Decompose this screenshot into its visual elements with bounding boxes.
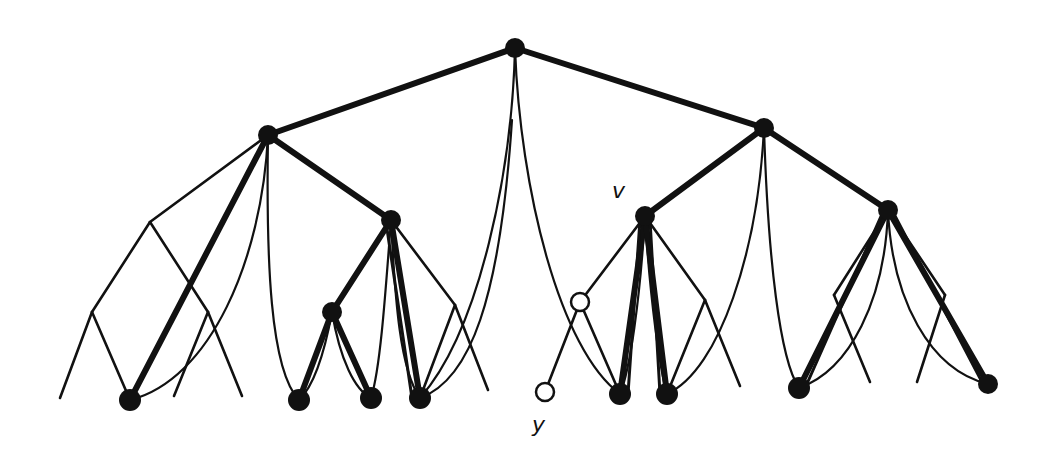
tree-diagram: v y — [0, 0, 1054, 458]
parallel-edges — [386, 214, 982, 398]
node-leaf8 — [978, 374, 998, 394]
curve-L-leaf2 — [268, 135, 299, 400]
edge-LRL-leaf3 — [332, 312, 371, 398]
thick-edges — [130, 48, 988, 400]
edge-R-v — [645, 128, 764, 216]
node-leaf2 — [288, 389, 310, 411]
node-hollow-1 — [571, 293, 589, 311]
edge-L-LR — [268, 135, 391, 220]
curve-R-leaf7 — [764, 128, 799, 388]
label-v: v — [612, 178, 626, 203]
edge-LRL-leaf2 — [299, 312, 332, 400]
curved-edges — [130, 48, 988, 400]
edge-root-L — [268, 48, 515, 135]
node-RR — [878, 200, 898, 220]
curve-leaf4-up — [420, 120, 512, 398]
node-root — [505, 38, 525, 58]
edge-LR-LRL — [332, 220, 391, 312]
diagram-canvas: v y — [0, 0, 1054, 458]
node-leaf3 — [360, 387, 382, 409]
edge-root-R — [515, 48, 764, 128]
curve-R-leaf6 — [667, 128, 764, 394]
node-leaf4 — [409, 387, 431, 409]
edge-R-RR — [764, 128, 888, 210]
curve-root-leaf5 — [515, 48, 620, 394]
node-leaf5 — [609, 383, 631, 405]
node-L — [258, 125, 278, 145]
node-LRL — [322, 302, 342, 322]
node-y — [536, 383, 554, 401]
node-leaf6 — [656, 383, 678, 405]
edge-LR-leaf4 — [391, 220, 420, 398]
node-v — [635, 206, 655, 226]
label-y: y — [531, 412, 546, 437]
node-LR — [381, 210, 401, 230]
node-leaf1 — [119, 389, 141, 411]
node-R — [754, 118, 774, 138]
node-leaf7 — [788, 377, 810, 399]
edge-L-leaf1 — [130, 135, 268, 400]
